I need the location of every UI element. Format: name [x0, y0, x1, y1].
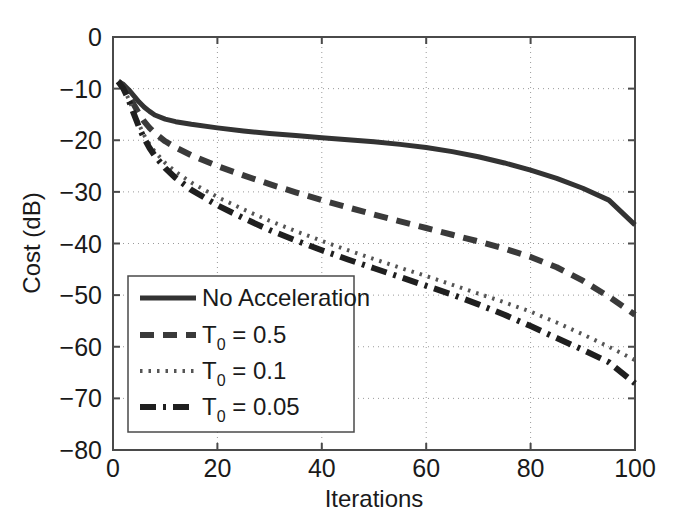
- legend-label-0: No Acceleration: [202, 284, 370, 311]
- chart-legend[interactable]: No AccelerationT0 = 0.5T0 = 0.1T0 = 0.05: [128, 276, 370, 432]
- x-tick-label: 100: [614, 454, 656, 482]
- y-tick-label: −50: [60, 281, 102, 309]
- x-tick-label: 60: [412, 454, 440, 482]
- cost-vs-iterations-chart: 020406080100 0−10−20−30−40−50−60−70−80 I…: [0, 0, 690, 527]
- x-tick-label: 0: [106, 454, 120, 482]
- y-tick-label: −30: [60, 178, 102, 206]
- y-tick-label: −60: [60, 333, 102, 361]
- figure-container: 020406080100 0−10−20−30−40−50−60−70−80 I…: [0, 0, 690, 527]
- y-tick-label: −20: [60, 126, 102, 154]
- y-tick-label: −40: [60, 230, 102, 258]
- y-tick-label: 0: [88, 23, 102, 51]
- x-tick-label: 40: [308, 454, 336, 482]
- y-tick-label: −10: [60, 75, 102, 103]
- y-axis-label: Cost (dB): [18, 192, 45, 293]
- y-tick-labels: 0−10−20−30−40−50−60−70−80: [60, 23, 102, 464]
- x-tick-label: 20: [203, 454, 231, 482]
- y-tick-label: −80: [60, 436, 102, 464]
- x-tick-label: 80: [517, 454, 545, 482]
- y-tick-label: −70: [60, 384, 102, 412]
- figure-background: [0, 0, 690, 527]
- y-axis-label-group: Cost (dB): [18, 192, 45, 293]
- x-axis-label: Iterations: [325, 485, 424, 512]
